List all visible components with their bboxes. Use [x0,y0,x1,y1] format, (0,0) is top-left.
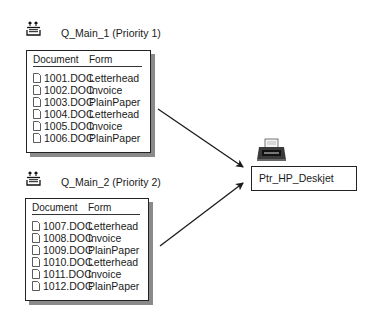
form-name: PlainPaper [88,244,139,256]
queue-2-header: Document Form [32,202,140,215]
form-name: PlainPaper [88,280,139,292]
queue-2-label: Q_Main_2 (Priority 2) [61,176,161,188]
arrow-queue1-to-printer [158,109,243,167]
table-row[interactable]: 1009.DOC PlainPaper [32,244,144,256]
table-row[interactable]: 1007.DOC Letterhead [32,220,144,232]
printer-icon [256,138,287,162]
document-name: 1003.DOC [44,96,94,108]
form-name: Letterhead [89,72,139,84]
form-name: Invoice [89,84,122,96]
table-row[interactable]: 1002.DOC Invoice [33,84,146,96]
form-name: Letterhead [89,108,139,120]
printer-label: Ptr_HP_Deskjet [259,172,334,184]
form-name: Letterhead [88,256,138,268]
document-name: 1002.DOC [44,84,94,96]
queue-1-header: Document Form [33,54,142,67]
document-icon [33,85,41,95]
table-row[interactable]: 1004.DOC Letterhead [33,108,146,120]
column-header-document: Document [32,202,78,213]
document-icon [32,233,40,243]
document-icon [32,257,40,267]
document-name: 1005.DOC [44,120,94,132]
printer-node[interactable]: Ptr_HP_Deskjet [251,166,357,191]
document-name: 1006.DOC [44,132,94,144]
document-name: 1011.DOC [43,268,92,280]
document-icon [33,121,41,131]
document-name: 1012.DOC [43,280,93,292]
document-icon [33,109,41,119]
document-icon [32,245,40,255]
table-row[interactable]: 1008.DOC Invoice [32,232,144,244]
table-row[interactable]: 1005.DOC Invoice [33,120,146,132]
table-row[interactable]: 1010.DOC Letterhead [32,256,144,268]
document-name: 1008.DOC [43,232,93,244]
table-row[interactable]: 1006.DOC PlainPaper [33,132,146,144]
table-row[interactable]: 1011.DOC Invoice [32,268,144,280]
column-header-form: Form [89,54,112,65]
table-row[interactable]: 1001.DOC Letterhead [33,72,146,84]
queue-2-document-list[interactable]: Document Form 1007.DOC Letterhead 1008.D… [25,198,149,301]
form-name: Letterhead [88,220,138,232]
table-row[interactable]: 1012.DOC PlainPaper [32,280,144,292]
document-icon [33,133,41,143]
document-icon [33,97,41,107]
print-queue-icon [26,21,41,36]
document-name: 1001.DOC [44,72,94,84]
document-name: 1010.DOC [43,256,93,268]
queue-1-document-list[interactable]: Document Form 1001.DOC Letterhead 1002.D… [26,50,151,153]
column-header-form: Form [88,202,111,213]
document-icon [32,221,40,231]
document-icon [32,281,40,291]
arrow-queue2-to-printer [160,183,243,246]
document-name: 1004.DOC [44,108,94,120]
queue-1-label: Q_Main_1 (Priority 1) [61,27,161,39]
document-name: 1009.DOC [43,244,93,256]
document-name: 1007.DOC [43,220,93,232]
form-name: Invoice [88,268,121,280]
column-header-document: Document [33,54,79,65]
form-name: PlainPaper [89,96,140,108]
document-icon [33,73,41,83]
form-name: Invoice [89,120,122,132]
print-queue-icon [26,171,41,186]
document-icon [32,269,40,279]
table-row[interactable]: 1003.DOC PlainPaper [33,96,146,108]
form-name: PlainPaper [89,132,140,144]
form-name: Invoice [88,232,121,244]
